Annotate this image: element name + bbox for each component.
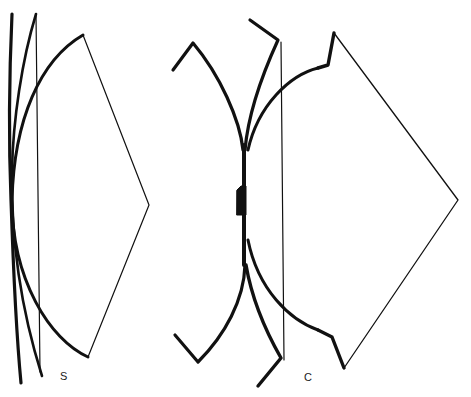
panel-c <box>173 20 458 386</box>
panel-label-s: S <box>60 371 67 382</box>
c-right-upper-arc <box>245 20 278 150</box>
c-left-upper-arc <box>173 43 243 150</box>
s-kite-outline <box>83 35 149 357</box>
c-left-lower-arc <box>175 265 245 362</box>
diagram-figure <box>0 0 471 397</box>
c-upper-notch <box>318 33 334 68</box>
c-kite-outline <box>334 33 458 368</box>
s-thin-vertical-line <box>36 14 40 372</box>
c-large-arc <box>248 68 318 150</box>
c-stem-bulge <box>237 186 246 215</box>
c-lower-notch <box>318 330 344 368</box>
panel-label-c: C <box>304 372 312 383</box>
panel-s <box>10 14 149 383</box>
